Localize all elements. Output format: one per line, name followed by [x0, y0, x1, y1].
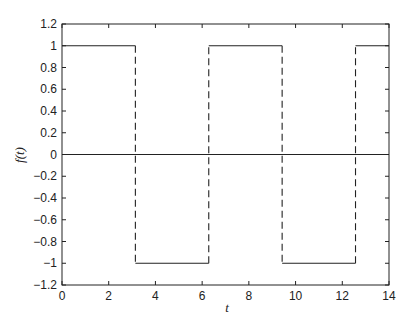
x-tick-label: 14 — [382, 289, 396, 303]
y-tick-label: −0.4 — [33, 191, 57, 205]
y-tick-label: −1 — [43, 256, 57, 270]
y-tick-label: 0.2 — [40, 126, 57, 140]
y-axis-label: f(t) — [12, 147, 27, 163]
x-tick-label: 12 — [336, 289, 350, 303]
y-tick-label: −0.2 — [33, 169, 57, 183]
x-tick-label: 4 — [152, 289, 159, 303]
x-axis-label: t — [225, 300, 229, 315]
y-tick-label: 1 — [50, 39, 57, 53]
x-tick-label: 8 — [246, 289, 253, 303]
y-tick-label: 1.2 — [40, 17, 57, 31]
y-tick-label: 0 — [50, 148, 57, 162]
x-tick-label: 10 — [289, 289, 303, 303]
data-series — [62, 46, 389, 264]
x-tick-label: 0 — [59, 289, 66, 303]
x-tick-label: 2 — [105, 289, 112, 303]
y-tick-label: −0.6 — [33, 213, 57, 227]
y-tick-label: −0.8 — [33, 235, 57, 249]
axis-ticks: 024681012141.210.80.60.40.20−0.2−0.4−0.6… — [33, 17, 396, 303]
y-tick-label: 0.6 — [40, 82, 57, 96]
square-wave-chart: 024681012141.210.80.60.40.20−0.2−0.4−0.6… — [0, 0, 411, 324]
y-tick-label: 0.8 — [40, 61, 57, 75]
y-tick-label: −1.2 — [33, 278, 57, 292]
x-tick-label: 6 — [199, 289, 206, 303]
y-tick-label: 0.4 — [40, 104, 57, 118]
